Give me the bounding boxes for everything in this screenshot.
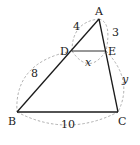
label-C: C <box>118 115 126 128</box>
length-DB: 8 <box>31 67 38 80</box>
label-B: B <box>8 115 16 128</box>
label-A: A <box>94 5 104 18</box>
length-EC: y <box>121 73 129 86</box>
label-E: E <box>108 45 116 58</box>
triangle-diagram: A B C D E 4 3 8 x y 10 <box>0 0 140 145</box>
length-AE: 3 <box>112 26 119 39</box>
length-BC: 10 <box>61 118 75 131</box>
label-D: D <box>60 45 69 58</box>
length-DE: x <box>85 56 92 69</box>
length-AD: 4 <box>73 20 80 33</box>
